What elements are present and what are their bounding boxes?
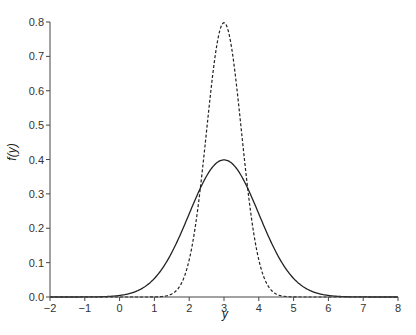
x-axis-label: y — [221, 307, 229, 321]
y-tick-label: 0.4 — [29, 154, 44, 166]
x-tick-label: 0 — [117, 302, 123, 314]
chart-canvas: −2−1012345678 0.00.10.20.30.40.50.60.70.… — [0, 0, 416, 335]
curve-solid-normal — [50, 160, 398, 297]
curves — [50, 23, 398, 297]
y-tick-label: 0.8 — [29, 16, 44, 28]
x-tick-label: 1 — [151, 302, 157, 314]
y-tick-label: 0.6 — [29, 85, 44, 97]
axes: −2−1012345678 0.00.10.20.30.40.50.60.70.… — [5, 16, 401, 321]
y-tick-label: 0.5 — [29, 119, 44, 131]
y-tick-label: 0.1 — [29, 257, 44, 269]
y-tick-label: 0.7 — [29, 50, 44, 62]
y-tick-label: 0.0 — [29, 291, 44, 303]
x-tick-label: 5 — [291, 302, 297, 314]
y-ticks: 0.00.10.20.30.40.50.60.70.8 — [29, 16, 50, 303]
y-tick-label: 0.2 — [29, 222, 44, 234]
x-tick-label: 2 — [186, 302, 192, 314]
y-tick-label: 0.3 — [29, 188, 44, 200]
x-tick-label: −2 — [44, 302, 57, 314]
x-tick-label: 6 — [325, 302, 331, 314]
x-tick-label: 7 — [360, 302, 366, 314]
x-tick-label: −1 — [79, 302, 92, 314]
x-tick-label: 4 — [256, 302, 262, 314]
y-axis-label: f(y) — [5, 143, 19, 160]
x-tick-label: 8 — [395, 302, 401, 314]
